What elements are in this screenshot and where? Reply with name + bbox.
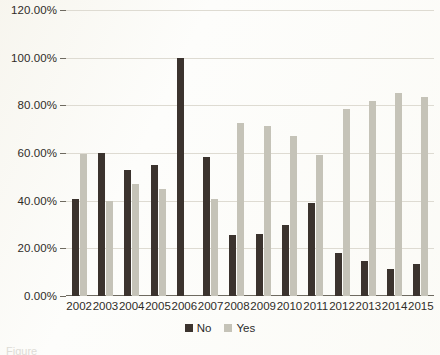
x-axis-label-2012: 2012: [329, 300, 355, 312]
x-axis-label-2013: 2013: [355, 300, 381, 312]
bar-yes-2004: [132, 184, 139, 296]
y-axis-tick: [60, 58, 66, 59]
bar-no-2005: [151, 165, 158, 296]
bar-yes-2009: [264, 126, 271, 296]
y-axis-label: 60.00%: [17, 147, 57, 159]
chart-legend: NoYes: [0, 322, 440, 334]
bar-group-2007: 2007: [203, 10, 218, 296]
bar-no-2015: [413, 264, 420, 296]
bar-yes-2013: [369, 101, 376, 296]
x-axis-label-2002: 2002: [66, 300, 92, 312]
legend-item-no: No: [185, 322, 212, 334]
bar-group-2013: 2013: [361, 10, 376, 296]
legend-swatch-yes-icon: [224, 324, 232, 332]
bar-no-2002: [72, 199, 79, 296]
bar-no-2011: [308, 203, 315, 296]
bar-no-2003: [98, 153, 105, 296]
bar-no-2014: [387, 269, 394, 296]
legend-label: Yes: [236, 322, 255, 334]
bar-group-2003: 2003: [98, 10, 113, 296]
y-axis-label: 20.00%: [17, 242, 57, 254]
y-axis-label: 80.00%: [17, 99, 57, 111]
bar-yes-2008: [237, 123, 244, 296]
x-axis-label-2009: 2009: [250, 300, 276, 312]
bar-no-2008: [229, 235, 236, 296]
figure-caption: Figure: [6, 345, 226, 355]
bar-group-2014: 2014: [387, 10, 402, 296]
bar-yes-2007: [211, 199, 218, 296]
x-axis-label-2006: 2006: [171, 300, 197, 312]
y-axis-tick: [60, 10, 66, 11]
legend-label: No: [197, 322, 212, 334]
y-axis-label: 120.00%: [11, 4, 57, 16]
gridline-60: [66, 153, 434, 154]
bar-no-2007: [203, 157, 210, 296]
bar-yes-2011: [316, 155, 323, 296]
x-axis-label-2014: 2014: [382, 300, 408, 312]
bar-no-2010: [282, 225, 289, 297]
x-axis-label-2008: 2008: [224, 300, 250, 312]
y-axis-label: 100.00%: [11, 52, 57, 64]
y-axis-label: 40.00%: [17, 195, 57, 207]
bar-group-2012: 2012: [335, 10, 350, 296]
gridline-80: [66, 105, 434, 106]
bar-group-2008: 2008: [229, 10, 244, 296]
bar-yes-2010: [290, 136, 297, 296]
bar-group-2006: 2006: [177, 10, 192, 296]
gridline-20: [66, 248, 434, 249]
gridline-40: [66, 201, 434, 202]
bar-no-2004: [124, 170, 131, 296]
bar-yes-2002: [80, 154, 87, 296]
x-axis-label-2015: 2015: [408, 300, 434, 312]
bar-yes-2015: [421, 97, 428, 296]
bar-group-2010: 2010: [282, 10, 297, 296]
x-axis-label-2003: 2003: [93, 300, 119, 312]
y-axis-tick: [60, 248, 66, 249]
bar-group-2015: 2015: [413, 10, 428, 296]
bar-no-2009: [256, 234, 263, 296]
x-axis-label-2004: 2004: [119, 300, 145, 312]
bar-group-2009: 2009: [256, 10, 271, 296]
gridline-100: [66, 58, 434, 59]
bar-group-2004: 2004: [124, 10, 139, 296]
y-axis-tick: [60, 153, 66, 154]
y-axis-label: 0.00%: [24, 290, 57, 302]
y-axis-tick: [60, 201, 66, 202]
bar-no-2013: [361, 261, 368, 296]
x-axis-baseline: [66, 295, 434, 296]
bar-yes-2014: [395, 93, 402, 296]
y-axis-tick: [60, 105, 66, 106]
gridline-120: [66, 10, 434, 11]
x-axis-label-2005: 2005: [145, 300, 171, 312]
y-axis-tick: [60, 296, 66, 297]
x-axis-label-2007: 2007: [198, 300, 224, 312]
bar-group-2011: 2011: [308, 10, 323, 296]
bar-yes-2005: [159, 189, 166, 296]
plot-area: 0.00%20.00%40.00%60.00%80.00%100.00%120.…: [66, 10, 434, 296]
bar-no-2012: [335, 253, 342, 296]
bar-no-2006: [177, 58, 184, 296]
bar-group-2005: 2005: [151, 10, 166, 296]
bar-group-2002: 2002: [72, 10, 87, 296]
legend-item-yes: Yes: [224, 322, 255, 334]
bar-yes-2003: [106, 201, 113, 296]
legend-swatch-no-icon: [185, 324, 193, 332]
x-axis-label-2011: 2011: [303, 300, 328, 312]
x-axis-label-2010: 2010: [277, 300, 303, 312]
chart-page: 0.00%20.00%40.00%60.00%80.00%100.00%120.…: [0, 0, 440, 355]
bar-yes-2012: [343, 109, 350, 296]
